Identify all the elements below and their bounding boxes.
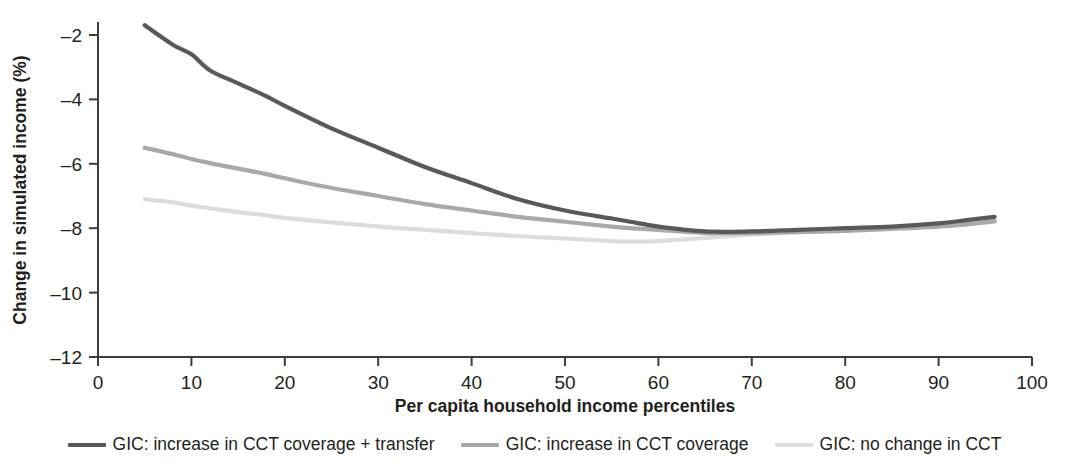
y-axis-ticks: –2–4–6–8–10–12 bbox=[50, 25, 98, 368]
y-axis: –2–4–6–8–10–12 Change in simulated incom… bbox=[10, 22, 98, 368]
legend-line-swatch-icon bbox=[68, 443, 106, 447]
x-tick-label: 10 bbox=[181, 372, 202, 393]
y-tick-label: –8 bbox=[61, 218, 82, 239]
data-series-group bbox=[145, 25, 995, 241]
y-tick-label: –12 bbox=[50, 347, 82, 368]
y-axis-title: Change in simulated income (%) bbox=[10, 55, 30, 324]
legend-item-label: GIC: increase in CCT coverage bbox=[506, 436, 749, 454]
legend-item-1[interactable]: GIC: increase in CCT coverage + transfer bbox=[68, 436, 435, 454]
y-tick-label: –10 bbox=[50, 283, 82, 304]
chart-legend: GIC: increase in CCT coverage + transfer… bbox=[0, 430, 1069, 460]
x-tick-label: 60 bbox=[648, 372, 669, 393]
x-tick-label: 30 bbox=[368, 372, 389, 393]
x-tick-label: 0 bbox=[93, 372, 104, 393]
chart-canvas: –2–4–6–8–10–12 Change in simulated incom… bbox=[0, 0, 1069, 430]
x-tick-label: 100 bbox=[1016, 372, 1048, 393]
x-tick-label: 20 bbox=[274, 372, 295, 393]
legend-item-3[interactable]: GIC: no change in CCT bbox=[775, 436, 1002, 454]
x-axis-title: Per capita household income percentiles bbox=[395, 396, 736, 416]
x-axis: 0102030405060708090100 Per capita househ… bbox=[93, 357, 1048, 416]
legend-item-label: GIC: increase in CCT coverage + transfer bbox=[113, 436, 435, 454]
x-tick-label: 80 bbox=[835, 372, 856, 393]
x-tick-label: 90 bbox=[928, 372, 949, 393]
y-tick-label: –4 bbox=[61, 89, 83, 110]
y-tick-label: –6 bbox=[61, 154, 82, 175]
legend-item-label: GIC: no change in CCT bbox=[820, 436, 1002, 454]
x-tick-label: 50 bbox=[554, 372, 575, 393]
legend-line-swatch-icon bbox=[775, 443, 813, 447]
growth-incidence-curve-figure: –2–4–6–8–10–12 Change in simulated incom… bbox=[0, 0, 1069, 466]
series-line-2 bbox=[145, 148, 995, 234]
x-axis-ticks: 0102030405060708090100 bbox=[93, 357, 1048, 393]
legend-item-2[interactable]: GIC: increase in CCT coverage bbox=[461, 436, 749, 454]
series-line-1 bbox=[145, 25, 995, 232]
x-tick-label: 40 bbox=[461, 372, 482, 393]
y-tick-label: –2 bbox=[61, 25, 82, 46]
legend-line-swatch-icon bbox=[461, 443, 499, 447]
x-tick-label: 70 bbox=[741, 372, 762, 393]
